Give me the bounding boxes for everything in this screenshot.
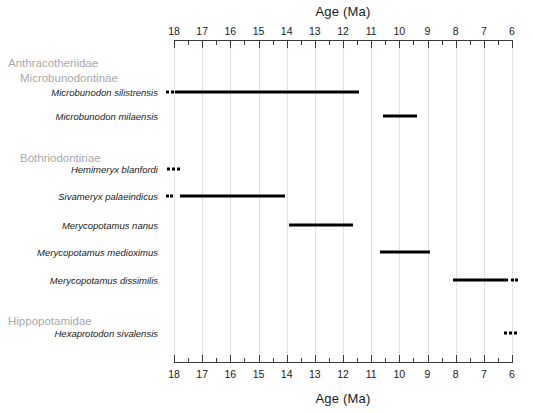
tick-label-top-15: 15 <box>247 25 271 37</box>
group-label-bothriodontinae: Bothriodontinae <box>20 152 101 164</box>
major-tick <box>399 41 400 48</box>
taxon-label-merycopotamus-nanus: Merycopotamus nanus <box>62 220 158 231</box>
tick-label-bottom-17: 17 <box>190 368 214 380</box>
minor-tick <box>329 41 330 45</box>
minor-tick <box>357 41 358 45</box>
major-tick <box>512 41 513 48</box>
axis-title-top: Age (Ma) <box>163 4 523 19</box>
major-tick <box>259 355 260 362</box>
minor-tick <box>216 41 217 45</box>
major-tick <box>287 355 288 362</box>
group-label-hippopotamidae: Hippopotamidae <box>8 315 92 327</box>
major-tick <box>456 41 457 48</box>
major-tick <box>371 355 372 362</box>
range-dash-segment <box>515 279 518 282</box>
minor-tick <box>413 358 414 362</box>
axis-line-bottom <box>174 362 513 363</box>
minor-tick <box>188 358 189 362</box>
range-dash-segment <box>177 168 180 171</box>
tick-label-bottom-10: 10 <box>387 368 411 380</box>
tick-label-top-9: 9 <box>416 25 440 37</box>
taxon-label-hexaprotodon-sivalensis: Hexaprotodon sivalensis <box>54 328 158 339</box>
minor-tick <box>188 41 189 45</box>
axis-title-bottom: Age (Ma) <box>163 391 523 406</box>
taxon-label-merycopotamus-medioximus: Merycopotamus medioximus <box>37 247 158 258</box>
tick-label-top-6: 6 <box>500 25 524 37</box>
major-tick <box>371 41 372 48</box>
range-bar <box>453 279 508 282</box>
tick-label-bottom-13: 13 <box>303 368 327 380</box>
tick-label-top-13: 13 <box>303 25 327 37</box>
minor-tick <box>244 358 245 362</box>
major-tick <box>484 355 485 362</box>
minor-tick <box>413 41 414 45</box>
range-bar <box>383 115 417 118</box>
gridline-11 <box>371 46 372 361</box>
minor-tick <box>301 41 302 45</box>
minor-tick <box>470 358 471 362</box>
range-bar <box>180 195 285 198</box>
major-tick <box>202 355 203 362</box>
minor-tick <box>273 41 274 45</box>
tick-label-bottom-14: 14 <box>275 368 299 380</box>
major-tick <box>202 41 203 48</box>
tick-label-top-17: 17 <box>190 25 214 37</box>
tick-label-top-16: 16 <box>218 25 242 37</box>
minor-tick <box>216 358 217 362</box>
taxon-label-microbunodon-milaensis: Microbunodon milaensis <box>56 111 158 122</box>
minor-tick <box>385 358 386 362</box>
taxon-label-sivameryx-palaeindicus: Sivameryx palaeindicus <box>58 191 158 202</box>
gridline-7 <box>484 46 485 361</box>
tick-label-top-18: 18 <box>162 25 186 37</box>
range-dash-segment <box>504 332 507 335</box>
temporal-range-chart: Age (Ma) Age (Ma) 1818171716161515141413… <box>0 0 533 413</box>
range-dash-segment <box>166 195 169 198</box>
tick-label-top-11: 11 <box>359 25 383 37</box>
major-tick <box>230 41 231 48</box>
tick-label-top-14: 14 <box>275 25 299 37</box>
major-tick <box>484 41 485 48</box>
minor-tick <box>385 41 386 45</box>
minor-tick <box>470 41 471 45</box>
tick-label-bottom-11: 11 <box>359 368 383 380</box>
major-tick <box>399 355 400 362</box>
tick-label-bottom-9: 9 <box>416 368 440 380</box>
minor-tick <box>273 358 274 362</box>
range-dash-segment <box>509 332 512 335</box>
major-tick <box>315 355 316 362</box>
major-tick <box>456 355 457 362</box>
range-dash-segment <box>166 91 169 94</box>
tick-label-bottom-6: 6 <box>500 368 524 380</box>
minor-tick <box>442 41 443 45</box>
major-tick <box>315 41 316 48</box>
major-tick <box>428 355 429 362</box>
major-tick <box>428 41 429 48</box>
minor-tick <box>244 41 245 45</box>
range-bar <box>289 224 353 227</box>
range-dash-segment <box>514 332 517 335</box>
major-tick <box>174 355 175 362</box>
range-bar <box>175 91 359 94</box>
taxon-label-merycopotamus-dissimilis: Merycopotamus dissimilis <box>50 275 158 286</box>
tick-label-bottom-18: 18 <box>162 368 186 380</box>
tick-label-bottom-7: 7 <box>472 368 496 380</box>
range-dash-segment <box>167 168 170 171</box>
major-tick <box>287 41 288 48</box>
major-tick <box>343 41 344 48</box>
minor-tick <box>357 358 358 362</box>
range-dash-segment <box>170 195 173 198</box>
tick-label-top-7: 7 <box>472 25 496 37</box>
gridline-8 <box>456 46 457 361</box>
minor-tick <box>329 358 330 362</box>
tick-label-bottom-15: 15 <box>247 368 271 380</box>
tick-label-top-8: 8 <box>444 25 468 37</box>
major-tick <box>512 355 513 362</box>
range-dash-segment <box>511 279 514 282</box>
tick-label-top-12: 12 <box>331 25 355 37</box>
minor-tick <box>301 358 302 362</box>
tick-label-bottom-12: 12 <box>331 368 355 380</box>
group-label-anthracotheriidae: Anthracotheriidae <box>8 57 98 69</box>
group-label-microbunodontinae: Microbunodontinae <box>20 72 118 84</box>
major-tick <box>259 41 260 48</box>
taxon-label-microbunodon-silistrensis: Microbunodon silistrensis <box>51 87 158 98</box>
